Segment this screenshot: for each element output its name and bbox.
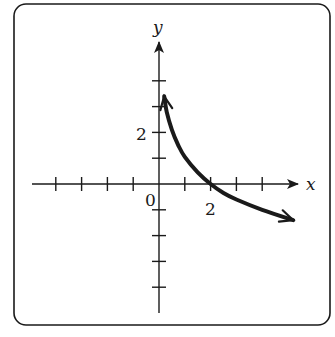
- curve-arrowheads: [160, 96, 293, 221]
- y-tick-label-2: 2: [136, 124, 147, 144]
- y-axis-label: y: [152, 17, 163, 37]
- function-curve: [164, 96, 293, 220]
- graph-frame: [14, 4, 330, 325]
- axes: [32, 42, 298, 313]
- x-tick-label-2: 2: [205, 199, 216, 219]
- graph-figure: y x 0 2 2: [0, 0, 335, 337]
- origin-label: 0: [145, 190, 156, 210]
- x-axis-label: x: [306, 174, 316, 194]
